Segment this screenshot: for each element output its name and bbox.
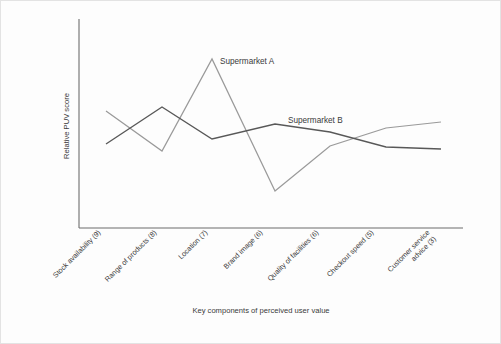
x-axis-tick-label: Stock availability (9)	[51, 228, 103, 280]
x-axis-tick-label: Customer serviceadvice (3)	[386, 228, 438, 280]
x-axis-tick-label: Quality of facilities (6)	[265, 228, 320, 283]
series-label-supermarket-a: Supermarket A	[220, 57, 275, 66]
x-axis-tick-label: Checkout speed (5)	[325, 228, 376, 279]
x-axis-tick-label: Range of products (8)	[103, 228, 159, 284]
series-label-supermarket-b: Supermarket B	[288, 116, 343, 125]
line-chart: Supermarket A Supermarket B Relative PUV…	[1, 1, 501, 344]
x-axis-tick-label: Location (7)	[176, 228, 209, 261]
chart-figure: Supermarket A Supermarket B Relative PUV…	[0, 0, 501, 344]
y-axis-title: Relative PUV score	[62, 93, 71, 159]
x-axis-tick-labels: Stock availability (9)Range of products …	[51, 228, 438, 284]
x-axis-tick-label: Brand image (6)	[222, 228, 265, 271]
x-axis-title: Key components of perceived user value	[192, 306, 329, 315]
